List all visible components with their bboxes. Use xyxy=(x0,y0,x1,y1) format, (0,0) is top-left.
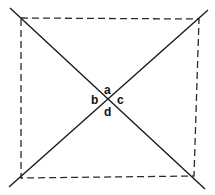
diagonal-line-2 xyxy=(9,10,208,187)
angles-diagram: a b c d xyxy=(0,0,215,195)
angle-label-d: d xyxy=(104,105,111,119)
angle-label-c: c xyxy=(117,93,124,107)
angle-label-a: a xyxy=(104,83,111,97)
angle-label-b: b xyxy=(91,93,98,107)
